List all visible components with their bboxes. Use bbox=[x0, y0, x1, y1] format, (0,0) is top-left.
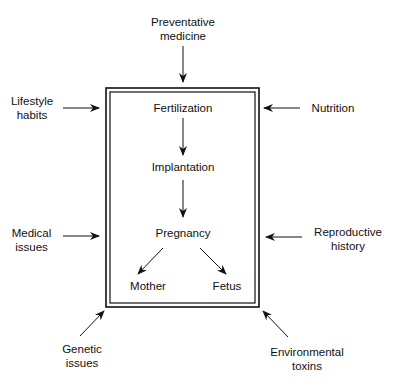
label-medical-issues: Medical issues bbox=[4, 226, 59, 254]
arrow-bottom-right bbox=[263, 311, 288, 337]
arrow-preg-fetus bbox=[200, 248, 226, 274]
stage-pregnancy: Pregnancy bbox=[133, 226, 233, 240]
diagram-canvas bbox=[0, 0, 399, 386]
label-nutrition: Nutrition bbox=[303, 101, 363, 115]
label-lifestyle-habits: Lifestyle habits bbox=[2, 94, 62, 122]
stage-fertilization: Fertilization bbox=[133, 101, 233, 115]
arrow-preg-mother bbox=[138, 248, 163, 274]
label-preventative-medicine: Preventative medicine bbox=[133, 15, 233, 43]
label-genetic-issues: Genetic issues bbox=[52, 342, 112, 370]
label-environmental-toxins: Environmental toxins bbox=[262, 345, 352, 373]
outcome-fetus: Fetus bbox=[197, 279, 257, 293]
stage-implantation: Implantation bbox=[133, 160, 233, 174]
arrow-bottom-left bbox=[80, 311, 104, 336]
outcome-mother: Mother bbox=[118, 279, 178, 293]
label-reproductive-history: Reproductive history bbox=[306, 225, 390, 253]
